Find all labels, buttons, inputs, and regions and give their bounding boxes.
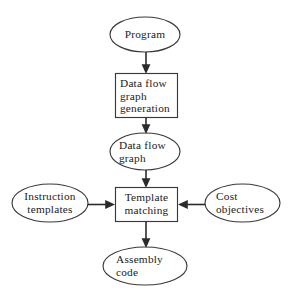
edge-templates-to-matching <box>88 200 115 209</box>
node-label-template-matching: Template matching <box>115 191 178 216</box>
edge-graph-to-template-matching <box>142 170 151 188</box>
edge-cost-to-matching <box>178 200 205 209</box>
node-label-cost-objectives: Cost objectives <box>216 190 278 215</box>
node-label-data-flow-graph: Data flow graph <box>119 139 181 164</box>
node-label-dfg-generation: Data flow graph generation <box>120 77 178 115</box>
flowchart-canvas: Program Data flow graph generation Data … <box>0 0 289 293</box>
node-label-program: Program <box>110 28 180 41</box>
node-label-assembly-code: Assembly code <box>116 253 178 278</box>
edge-matching-to-assembly <box>142 222 151 249</box>
edge-program-to-dfg-generation <box>142 52 151 74</box>
edge-dfg-generation-to-graph <box>142 118 151 135</box>
node-label-instruction-templates: Instruction templates <box>12 190 88 215</box>
